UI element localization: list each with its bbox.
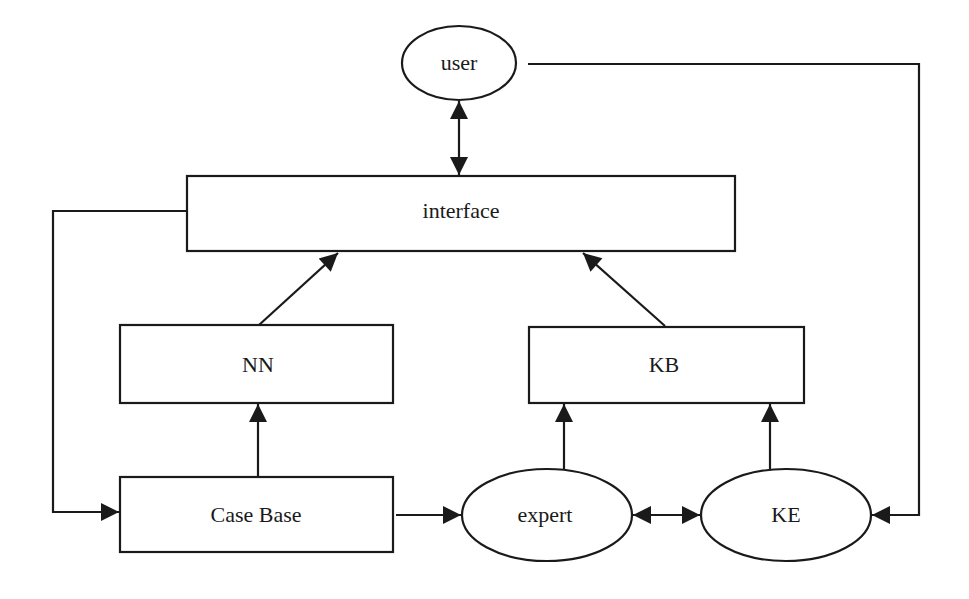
node-expert: expert: [462, 469, 632, 561]
node-user: user: [402, 26, 516, 100]
node-expert-label: expert: [518, 502, 573, 527]
system-diagram: user interface NN KB Case Base expert KE: [0, 0, 969, 599]
edge-user-ke: [528, 64, 919, 515]
node-case-base-label: Case Base: [210, 502, 301, 527]
node-case-base: Case Base: [120, 477, 393, 552]
node-kb: KB: [529, 327, 804, 403]
node-interface-label: interface: [423, 198, 500, 223]
edges: [53, 64, 919, 515]
node-kb-label: KB: [649, 352, 680, 377]
node-ke-label: KE: [771, 502, 800, 527]
edge-kb-interface: [583, 253, 665, 326]
node-interface: interface: [187, 176, 735, 251]
node-nn: NN: [120, 325, 393, 403]
edge-nn-interface: [259, 253, 338, 325]
node-ke: KE: [701, 469, 871, 561]
node-nn-label: NN: [242, 352, 274, 377]
node-user-label: user: [441, 50, 478, 75]
